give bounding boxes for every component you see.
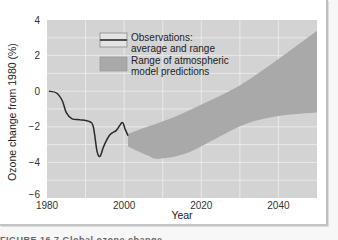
figure-caption: FIGURE 16.7 Global ozone change... [0,234,338,240]
y-axis-label: Ozone change from 1980 (%) [6,43,18,181]
y-tick-label: 4 [34,15,40,26]
legend-label-observations-2: average and range [131,43,215,54]
caption-text: FIGURE 16.7 Global ozone change... [0,234,338,240]
legend-swatch-area [100,57,127,71]
x-axis-label: Year [171,209,193,221]
y-tick-label: −4 [29,157,41,168]
legend-label-model-2: model predictions [131,66,209,77]
x-tick-label: 2040 [267,200,290,211]
y-axis-ticks: 420−2−4−6 [29,15,41,201]
x-tick-label: 2020 [190,200,213,211]
legend-label-model-1: Range of atmospheric [131,55,229,66]
y-tick-label: 0 [34,86,40,97]
y-tick-label: 2 [34,50,40,61]
x-tick-label: 2000 [113,200,136,211]
x-axis-ticks: 1980200020202040 [36,200,290,211]
legend-label-observations-1: Observations: [131,32,193,43]
x-tick-label: 1980 [36,200,59,211]
y-tick-label: −6 [29,189,41,200]
y-tick-label: −2 [29,121,41,132]
ozone-chart: 420−2−4−6 1980200020202040 Ozone change … [0,0,338,240]
